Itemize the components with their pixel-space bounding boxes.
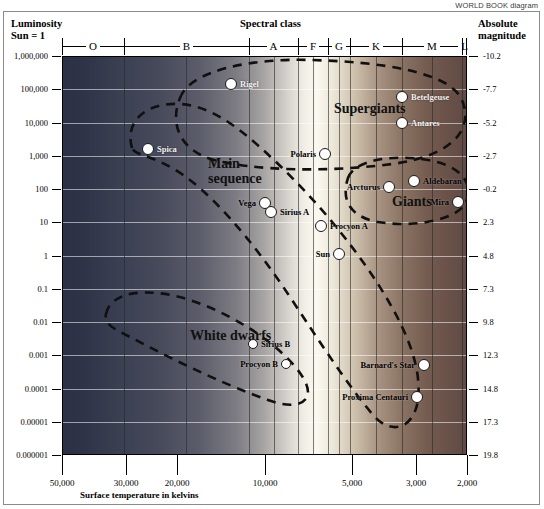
y2-axis-tick [469,222,478,223]
y2-axis-tick-label: -2.7 [483,151,523,161]
star-marker[interactable] [418,359,430,371]
star-label: Procyon B [240,359,278,369]
y-axis-tick-label: 0.1 [8,284,48,294]
y-axis-tick [52,389,61,390]
star-label: Sun [316,249,330,259]
star-marker[interactable] [248,339,258,349]
y2-axis-tick [469,355,478,356]
y-axis-tick-label: 0.01 [8,317,48,327]
y-axis-tick [52,189,61,190]
star-label: Barnard's Star [360,360,415,370]
star-label: Aldebaran [423,176,462,186]
hr-diagram-figure: WORLD BOOK diagram Luminosity Sun = 1 Sp… [0,0,544,509]
spectral-class-tick [328,38,329,55]
star-marker[interactable] [411,391,423,403]
spectral-class-label: K [369,40,383,52]
y2-axis-tick-label: 19.8 [483,450,523,460]
x-axis-tick-label: 10,000 [235,478,295,488]
region-label-giants: Giants [392,194,432,209]
spectral-class-label: A [267,40,281,52]
spectral-class-tick [466,38,467,55]
region-label-main-sequence: Main sequence [208,156,262,186]
y-axis-tick-label: 100 [8,184,48,194]
spectral-class-title: Spectral class [240,18,301,30]
star-label: Betelgeuse [411,92,449,102]
star-label: Arcturus [347,182,380,192]
y2-axis-tick [469,322,478,323]
y-axis-tick-label: 0.000001 [8,450,48,460]
absolute-magnitude-subtitle: magnitude [478,30,526,42]
x-axis-tick [126,455,127,475]
star-label: Vega [238,198,256,208]
y-axis-tick-label: 10,000 [8,118,48,128]
star-marker[interactable] [281,359,291,369]
y-axis-tick-label: 1 [8,251,48,261]
y-axis-tick [52,455,61,456]
y2-axis-tick [469,56,478,57]
x-axis-tick [62,455,63,475]
spectral-class-tick [462,38,463,55]
y-axis-tick-label: 0.0001 [8,384,48,394]
star-label: Rigel [240,79,259,89]
y2-axis-tick [469,189,478,190]
spectral-class-label: L [458,40,471,52]
y-axis-tick-label: 0.001 [8,350,48,360]
y-axis-tick [52,56,61,57]
spectral-class-label: M [424,40,440,52]
spectral-class-label: O [86,40,100,52]
star-marker[interactable] [452,196,464,208]
region-label-white-dwarfs: White dwarfs [190,328,271,343]
star-marker[interactable] [396,117,408,129]
spectral-class-tick [402,38,403,55]
star-marker[interactable] [408,175,420,187]
y-axis-tick-label: 0.00001 [8,417,48,427]
x-axis-tick [177,455,178,475]
y2-axis-tick [469,89,478,90]
x-axis-tick-label: 2,000 [437,478,497,488]
y2-axis-tick-label: 7.3 [483,284,523,294]
y2-axis-tick-label: 12.3 [483,350,523,360]
spectral-class-tick [124,38,125,55]
y-axis-tick [52,222,61,223]
star-label: Sirius A [280,207,309,217]
spectral-class-tick [350,38,351,55]
spectral-class-tick [249,38,250,55]
spectral-class-label: F [307,40,319,52]
spectral-class-label: G [332,40,346,52]
region-label-supergiants: Supergiants [334,101,406,116]
x-axis-tick-label: 20,000 [147,478,207,488]
y-axis-tick [52,355,61,356]
star-marker[interactable] [319,148,331,160]
y2-axis-tick [469,455,478,456]
y-axis-tick-label: 1,000,000 [8,51,48,61]
y2-axis-tick-label: -10.2 [483,51,523,61]
y2-axis-tick [469,256,478,257]
x-axis-title: Surface temperature in kelvins [80,490,199,500]
y2-axis-tick [469,156,478,157]
star-marker[interactable] [265,206,277,218]
spectral-class-tick [62,38,63,55]
y2-axis-tick-label: 9.8 [483,317,523,327]
x-axis-tick-label: 50,000 [32,478,92,488]
spectral-class-axis: OBAFGKML [62,36,467,56]
x-axis-tick [467,455,468,475]
x-axis-tick [265,455,266,475]
y-axis-tick-label: 1,000 [8,151,48,161]
star-marker[interactable] [225,78,237,90]
x-axis-tick [416,455,417,475]
x-axis-tick-label: 5,000 [322,478,382,488]
spectral-class-tick [298,38,299,55]
luminosity-axis-subtitle: Sun = 1 [11,30,45,42]
star-marker[interactable] [142,143,154,155]
star-marker[interactable] [383,181,395,193]
y2-axis-tick-label: 17.3 [483,417,523,427]
star-marker[interactable] [333,248,345,260]
star-marker[interactable] [396,91,408,103]
star-marker[interactable] [315,220,327,232]
spectral-class-label: B [180,40,193,52]
y2-axis-tick-label: 14.8 [483,384,523,394]
y2-axis-tick [469,123,478,124]
credit-text: WORLD BOOK diagram [455,1,538,10]
y-axis-tick-label: 10 [8,217,48,227]
y2-axis-tick-label: -7.7 [483,84,523,94]
